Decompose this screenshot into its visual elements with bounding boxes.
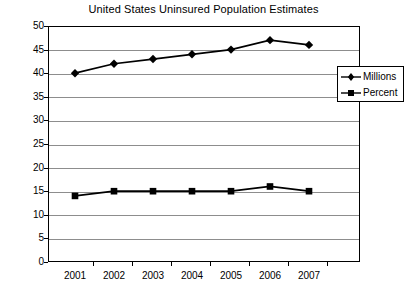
y-tick-label: 45	[16, 45, 44, 55]
data-point-millions	[71, 69, 79, 77]
legend-item-percent: Percent	[338, 84, 403, 101]
y-tick-label: 10	[16, 210, 44, 220]
data-point-percent	[150, 188, 157, 195]
legend-label-percent: Percent	[363, 87, 397, 98]
x-tick-mark	[171, 262, 172, 266]
diamond-marker-icon	[340, 68, 362, 85]
y-tick-mark	[44, 262, 48, 263]
data-point-millions	[227, 45, 235, 53]
data-point-percent	[306, 188, 313, 195]
data-point-millions	[110, 60, 118, 68]
y-tick-label: 20	[16, 163, 44, 173]
x-tick-label: 2002	[94, 270, 134, 282]
x-tick-mark	[210, 262, 211, 266]
x-tick-label: 2006	[250, 270, 290, 282]
y-tick-label: 5	[16, 233, 44, 243]
chart-title: United States Uninsured Population Estim…	[0, 3, 407, 15]
x-tick-mark	[249, 262, 250, 266]
data-point-millions	[305, 41, 313, 49]
x-tick-mark	[132, 262, 133, 266]
data-point-percent	[72, 193, 79, 200]
square-marker-icon	[340, 84, 362, 101]
y-tick-label: 25	[16, 139, 44, 149]
x-tick-label: 2004	[172, 270, 212, 282]
y-tick-label: 35	[16, 92, 44, 102]
x-axis: 2001200220032004200520062007	[0, 266, 407, 286]
chart-container: United States Uninsured Population Estim…	[0, 0, 407, 293]
legend-item-millions: Millions	[338, 68, 403, 85]
series-layer	[48, 26, 360, 262]
y-tick-label: 50	[16, 21, 44, 31]
x-tick-label: 2003	[133, 270, 173, 282]
data-point-millions	[266, 36, 274, 44]
y-tick-label: 15	[16, 186, 44, 196]
data-point-millions	[149, 55, 157, 63]
y-tick-label: 30	[16, 115, 44, 125]
data-point-percent	[189, 188, 196, 195]
legend-label-millions: Millions	[363, 71, 396, 82]
data-point-millions	[188, 50, 196, 58]
chart-legend: Millions Percent	[337, 66, 404, 102]
x-tick-mark	[93, 262, 94, 266]
x-tick-mark	[327, 262, 328, 266]
data-point-percent	[111, 188, 118, 195]
x-tick-mark	[288, 262, 289, 266]
y-tick-label: 40	[16, 68, 44, 78]
data-point-percent	[267, 183, 274, 190]
x-tick-label: 2005	[211, 270, 251, 282]
x-tick-label: 2001	[55, 270, 95, 282]
data-point-percent	[228, 188, 235, 195]
y-axis: 05101520253035404550	[10, 0, 44, 293]
x-tick-label: 2007	[289, 270, 329, 282]
